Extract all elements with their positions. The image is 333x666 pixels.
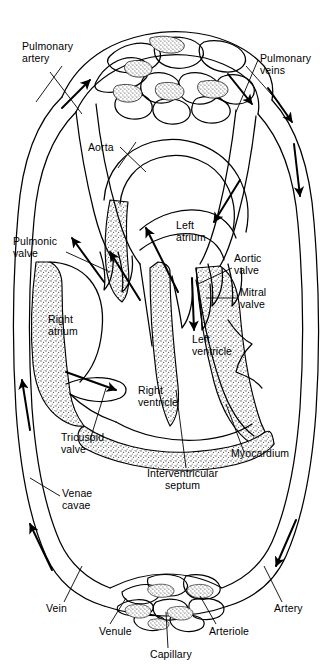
sys-capillary-stipple-d — [167, 606, 193, 620]
arrow-aorta-descending — [294, 144, 300, 196]
label-myocardium: Myocardium — [231, 448, 289, 460]
label-venae-cavae: Venae cavae — [62, 488, 92, 512]
arrow-pulmonary-veins — [228, 74, 252, 104]
label-right-atrium: Right atrium — [48, 314, 78, 338]
systemic-capillary-shading — [125, 584, 213, 630]
label-interventricular-septum: Interventricular septum — [147, 468, 218, 492]
leader-venae-cavae — [30, 478, 60, 496]
label-venule: Venule — [99, 626, 132, 638]
capillary-stipple-c — [113, 84, 142, 102]
arrow-pulmonary-veins-2 — [268, 88, 292, 122]
leader-pulmonary-veins — [236, 60, 258, 112]
capillary-stipple-d — [155, 82, 184, 100]
label-arteriole: Arteriole — [209, 626, 249, 638]
sys-capillary-stipple-e — [148, 619, 169, 630]
leader-capillary — [166, 612, 168, 648]
label-mitral-valve: Mitral valve — [240, 287, 266, 311]
lung-capillary-shading — [113, 36, 228, 102]
arrow-vein-return — [30, 524, 52, 570]
capillary-stipple-e — [198, 80, 228, 98]
right-heart-wall — [32, 262, 84, 426]
arrow-mitral-inflow — [192, 278, 194, 330]
label-aorta: Aorta — [88, 142, 114, 154]
label-right-ventricle: Right ventricle — [138, 385, 178, 409]
label-pulmonary-veins: Pulmonary veins — [260, 53, 311, 77]
label-pulmonary-artery: Pulmonary artery — [22, 41, 73, 65]
label-left-atrium: Left atrium — [176, 220, 206, 244]
leader-vein — [64, 566, 82, 602]
label-left-ventricle: Left ventricle — [192, 334, 232, 358]
label-vein: Vein — [46, 603, 67, 615]
leader-aorta-2 — [118, 142, 136, 168]
arrow-artery-flow — [276, 520, 296, 566]
label-pulmonic-valve: Pulmonic valve — [13, 236, 57, 260]
arrow-venae-cavae — [22, 380, 30, 430]
lung-capillary-loop-10 — [192, 97, 231, 123]
capillary-stipple-a — [150, 36, 185, 53]
lung-capillary-loop-4 — [199, 41, 245, 72]
pulmonary-vein-wall-2 — [220, 116, 256, 266]
label-capillary: Capillary — [150, 649, 192, 661]
label-aortic-valve: Aortic valve — [234, 253, 261, 277]
rv-cavity-floor — [116, 422, 252, 440]
arrow-pulmonic-outflow — [72, 238, 104, 282]
circulatory-system-figure: Pulmonary artery Pulmonary veins Aorta L… — [0, 0, 333, 666]
atrial-septum-mass — [105, 200, 129, 302]
leader-pulmonary-artery-2 — [36, 66, 62, 102]
sys-capillary-stipple-a — [148, 584, 174, 597]
capillary-stipple-b — [125, 60, 152, 77]
label-tricuspid-valve: Tricuspid valve — [61, 432, 104, 456]
label-artery: Artery — [274, 603, 303, 615]
mitral-valve-leaflet-1 — [172, 276, 193, 328]
